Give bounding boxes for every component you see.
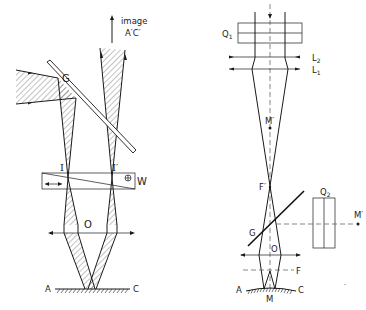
beam-edge xyxy=(270,69,288,186)
arrow-up-icon xyxy=(110,15,114,20)
prism-label: W xyxy=(137,176,147,187)
right-diagram: Q1 L2 L1 M′ F′ G xyxy=(222,4,363,304)
image-label: image xyxy=(121,16,147,26)
lens-l2 xyxy=(229,56,300,59)
beam-edge xyxy=(252,58,255,69)
intermediate-image-right-label: I′ xyxy=(112,162,119,173)
objective-label: O xyxy=(271,244,278,254)
focal-label: F xyxy=(296,266,301,276)
m-prime-side-label: M′ xyxy=(354,210,363,220)
point-c-label: C xyxy=(298,285,304,295)
point-m-prime-side xyxy=(357,223,360,226)
wollaston-prism xyxy=(42,173,135,189)
beam-edge xyxy=(270,271,275,289)
plate-label: G xyxy=(249,228,256,238)
beam-edge xyxy=(275,255,281,289)
point-a-label: A xyxy=(236,285,242,295)
quartz-2-label: Q2 xyxy=(320,187,331,198)
point-m-prime xyxy=(269,127,272,130)
lens-1-label: L1 xyxy=(312,65,321,76)
specimen-surface xyxy=(55,289,130,293)
beam-edge xyxy=(252,69,270,186)
arrow-down-icon xyxy=(268,14,272,19)
plate-label: G xyxy=(62,73,70,84)
optical-diagram: image A′C′ G I I′ W xyxy=(0,0,366,310)
objective-lens xyxy=(48,231,135,235)
focal-prime-label: F′ xyxy=(259,182,266,192)
beam-edge xyxy=(259,186,270,255)
quartz-plate-2 xyxy=(313,198,335,248)
beam-splitter-plate xyxy=(248,191,304,246)
image-points-label: A′C′ xyxy=(125,28,141,38)
objective-label: O xyxy=(84,219,92,230)
point-c-label: C xyxy=(133,284,139,294)
point-m-label: M xyxy=(266,294,273,304)
beam-edge xyxy=(259,255,264,289)
speck xyxy=(344,284,346,285)
intermediate-image-left-label: I xyxy=(60,162,64,173)
quartz-1-label: Q1 xyxy=(222,29,233,40)
lens-2-label: L2 xyxy=(312,53,321,64)
lens-l1 xyxy=(229,68,300,71)
beam-edge xyxy=(264,271,270,289)
right-beam-upper-fill xyxy=(100,48,125,178)
left-diagram: image A′C′ G I I′ W xyxy=(16,15,147,294)
beam-edge xyxy=(285,58,288,69)
right-lower-beam-fill xyxy=(88,233,117,289)
m-prime-axis-label: M′ xyxy=(265,116,274,126)
point-a-label: A xyxy=(45,284,51,294)
